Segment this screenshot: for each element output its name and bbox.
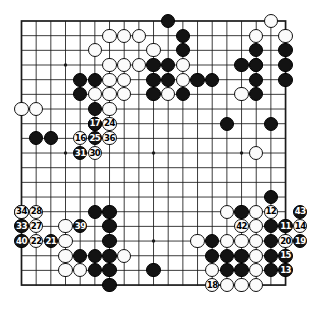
go-stone-white[interactable] (102, 73, 116, 87)
move-number-label: 31 (75, 149, 86, 158)
go-stone-black[interactable] (220, 117, 234, 131)
go-stone-move-43[interactable]: 43 (293, 205, 307, 219)
go-stone-black[interactable] (102, 219, 116, 233)
go-stone-white[interactable] (220, 234, 234, 248)
go-stone-black[interactable] (234, 205, 248, 219)
go-stone-white[interactable] (220, 278, 234, 292)
move-number-label: 15 (280, 251, 291, 260)
move-number-label: 24 (104, 119, 115, 128)
go-stone-black[interactable] (88, 102, 102, 116)
go-stone-black[interactable] (264, 190, 278, 204)
go-stone-black[interactable] (146, 263, 160, 277)
go-stone-black[interactable] (88, 73, 102, 87)
go-stone-white[interactable] (220, 205, 234, 219)
move-number-label: 13 (280, 266, 291, 275)
go-stone-move-28[interactable]: 28 (29, 205, 43, 219)
go-stone-black[interactable] (146, 87, 160, 101)
go-stone-move-30[interactable]: 30 (88, 146, 102, 160)
go-stone-white[interactable] (278, 29, 292, 43)
go-stone-white[interactable] (102, 87, 116, 101)
go-stone-white[interactable] (176, 73, 190, 87)
go-stone-black[interactable] (220, 249, 234, 263)
go-stone-white[interactable] (146, 43, 160, 57)
go-stone-white[interactable] (234, 234, 248, 248)
go-stone-black[interactable] (102, 249, 116, 263)
go-stone-black[interactable] (205, 249, 219, 263)
go-stone-white[interactable] (117, 249, 131, 263)
go-stone-white[interactable] (249, 249, 263, 263)
go-stone-move-20[interactable]: 20 (278, 234, 292, 248)
go-stone-black[interactable] (161, 73, 175, 87)
go-stone-white[interactable] (58, 263, 72, 277)
go-stone-move-12[interactable]: 12 (264, 205, 278, 219)
go-stone-white[interactable] (117, 29, 131, 43)
go-stone-white[interactable] (102, 29, 116, 43)
go-stone-move-42[interactable]: 42 (234, 219, 248, 233)
go-stone-black[interactable] (278, 58, 292, 72)
go-stone-black[interactable] (234, 249, 248, 263)
go-stone-black[interactable] (176, 29, 190, 43)
move-number-label: 43 (295, 207, 306, 216)
go-stone-black[interactable] (264, 249, 278, 263)
go-stone-black[interactable] (73, 249, 87, 263)
go-stone-move-15[interactable]: 15 (278, 249, 292, 263)
move-number-label: 18 (207, 281, 218, 290)
go-stone-black[interactable] (88, 205, 102, 219)
go-stone-white[interactable] (58, 219, 72, 233)
go-stone-white[interactable] (102, 102, 116, 116)
go-stone-move-21[interactable]: 21 (44, 234, 58, 248)
move-number-label: 42 (236, 222, 247, 231)
go-stone-move-24[interactable]: 24 (102, 117, 116, 131)
go-stone-black[interactable] (264, 234, 278, 248)
move-number-label: 39 (75, 222, 86, 231)
go-stone-black[interactable] (249, 73, 263, 87)
go-stone-white[interactable] (176, 58, 190, 72)
go-stone-white[interactable] (14, 102, 28, 116)
go-stone-black[interactable] (88, 249, 102, 263)
go-stone-move-17[interactable]: 17 (88, 117, 102, 131)
move-number-label: 30 (89, 149, 100, 158)
go-stone-white[interactable] (132, 29, 146, 43)
move-number-label: 28 (31, 207, 42, 216)
move-number-label: 36 (104, 134, 115, 143)
go-stone-white[interactable] (234, 87, 248, 101)
go-stone-black[interactable] (102, 234, 116, 248)
go-stone-white[interactable] (102, 58, 116, 72)
move-number-label: 11 (280, 222, 291, 231)
go-stone-move-40[interactable]: 40 (14, 234, 28, 248)
go-stone-black[interactable] (146, 73, 160, 87)
go-stone-black[interactable] (102, 278, 116, 292)
go-board[interactable]: 1112131415161718192021222425272830313334… (0, 0, 309, 311)
go-stone-black[interactable] (264, 117, 278, 131)
go-stone-black[interactable] (102, 263, 116, 277)
go-stone-move-36[interactable]: 36 (102, 131, 116, 145)
go-stone-black[interactable] (278, 43, 292, 57)
move-number-label: 22 (31, 237, 42, 246)
move-number-label: 27 (31, 222, 42, 231)
go-stone-black[interactable] (73, 73, 87, 87)
go-stone-white[interactable] (249, 205, 263, 219)
move-number-label: 20 (280, 237, 291, 246)
move-number-label: 16 (75, 134, 86, 143)
move-number-label: 34 (16, 207, 27, 216)
go-stone-move-34[interactable]: 34 (14, 205, 28, 219)
go-stone-white[interactable] (132, 58, 146, 72)
go-stone-black[interactable] (190, 73, 204, 87)
go-stone-move-33[interactable]: 33 (14, 219, 28, 233)
go-stone-black[interactable] (102, 205, 116, 219)
move-number-label: 21 (45, 237, 56, 246)
go-stone-black[interactable] (234, 263, 248, 277)
go-stone-black[interactable] (205, 73, 219, 87)
go-stone-black[interactable] (146, 58, 160, 72)
go-stone-white[interactable] (58, 234, 72, 248)
go-stone-white[interactable] (234, 278, 248, 292)
go-stone-move-13[interactable]: 13 (278, 263, 292, 277)
go-stone-white[interactable] (264, 14, 278, 28)
go-stone-white[interactable] (190, 234, 204, 248)
go-stone-white[interactable] (58, 249, 72, 263)
go-stone-move-11[interactable]: 11 (278, 219, 292, 233)
go-stone-white[interactable] (117, 73, 131, 87)
go-stone-white[interactable] (249, 29, 263, 43)
go-stone-black[interactable] (278, 73, 292, 87)
go-stone-black[interactable] (234, 58, 248, 72)
